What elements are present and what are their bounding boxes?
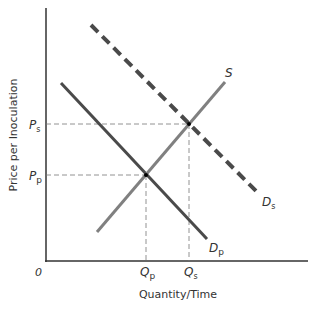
x-axis-title: Quantity/Time — [139, 288, 217, 301]
dp-label: Dp — [209, 241, 224, 257]
private-equilibrium-point — [144, 173, 148, 177]
ps-label: Ps — [29, 118, 40, 134]
y-axis-title: Price per Inoculation — [7, 79, 20, 192]
qs-label: Qs — [184, 265, 198, 281]
supply-curve — [97, 82, 225, 232]
qp-label: Qp — [140, 265, 155, 281]
social-demand-curve — [91, 25, 256, 191]
ds-label: Ds — [262, 195, 275, 211]
supply-demand-chart: S Ds Dp Ps Pp Qp Qs 0 Quantity/Time Pric… — [0, 0, 312, 311]
social-equilibrium-point — [187, 122, 191, 126]
origin-label: 0 — [35, 266, 42, 279]
pp-label: Pp — [29, 169, 42, 185]
private-demand-curve — [61, 83, 207, 239]
supply-label: S — [225, 66, 233, 80]
